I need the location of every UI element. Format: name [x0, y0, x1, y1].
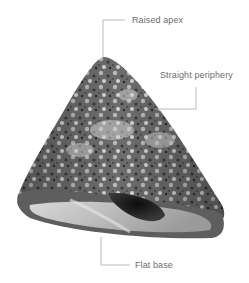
periphery-label: Straight periphery	[160, 70, 233, 80]
apex-leader-line	[103, 20, 125, 57]
periphery-leader-line	[155, 87, 196, 109]
base-leader-line	[101, 237, 130, 265]
shell-diagram: Raised apex Straight periphery Flat base	[0, 0, 249, 283]
apex-label: Raised apex	[132, 15, 183, 25]
base-label: Flat base	[135, 260, 173, 270]
shell-illustration	[0, 0, 249, 283]
